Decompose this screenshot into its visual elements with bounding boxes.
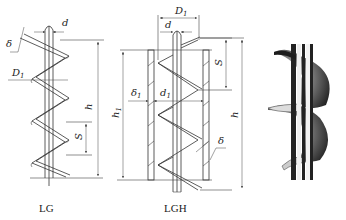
label-lgh-S: S [213, 59, 224, 66]
label-lgh-delta: δ [218, 135, 224, 146]
label-D1: D1 [11, 67, 25, 80]
lg-dim-h: h [60, 40, 104, 176]
label-S: S [73, 133, 84, 140]
lgh-dim-D1: D1 [158, 5, 199, 60]
lg-diagram: d δ D1 h S LG [6, 17, 104, 214]
label-lgh-d: d [165, 19, 171, 30]
lgh-dim-h1: h1 [110, 52, 123, 178]
label-h1: h1 [110, 107, 123, 118]
label-d1: d1 [160, 87, 171, 100]
lgh-dim-delta: δ [196, 135, 226, 160]
auger-photo [268, 44, 330, 180]
label-lgh-h: h [229, 112, 240, 118]
lg-dim-delta: δ [6, 27, 24, 52]
label-delta1: δ1 [131, 87, 142, 100]
lg-dim-S: S [66, 122, 92, 155]
label-delta: δ [6, 38, 12, 49]
caption-lgh: LGH [164, 202, 187, 214]
label-h: h [83, 104, 94, 110]
lgh-diagram: D1 d S δ1 d1 h1 h [110, 5, 244, 214]
label-d: d [62, 17, 68, 28]
lgh-shaft [173, 31, 181, 192]
lgh-dim-d: d [160, 19, 192, 32]
caption-lg: LG [39, 202, 54, 214]
lg-dim-d: d [34, 17, 68, 32]
diagram-canvas: d δ D1 h S LG [0, 0, 346, 220]
label-lgh-D1: D1 [174, 5, 188, 18]
